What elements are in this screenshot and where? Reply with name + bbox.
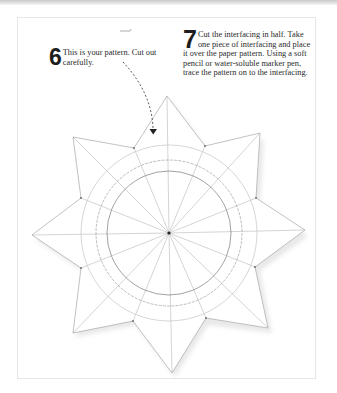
step-7: 7 Cut the interfacing in half. Take one … (183, 30, 311, 78)
step-6: 6 This is your pattern. Cut out carefull… (49, 48, 159, 67)
step-7-number: 7 (183, 30, 197, 49)
step-6-number: 6 (49, 48, 62, 66)
center-point (167, 231, 170, 234)
step-7-text: Cut the interfacing in half. Take one pi… (183, 30, 310, 77)
step-6-text: This is your pattern. Cut out carefully. (63, 48, 157, 67)
dashed-arrow (123, 62, 153, 128)
dash-mark (120, 29, 131, 31)
